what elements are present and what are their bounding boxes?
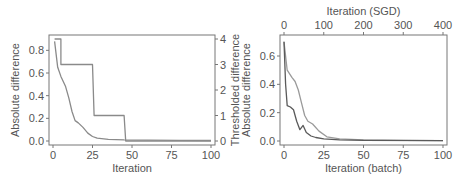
y-right-tick-label: 0 (220, 135, 226, 147)
y-tick-label: 0.0 (29, 135, 44, 147)
y-right-tick-label: 1 (220, 110, 226, 122)
x-tick-label: 100 (202, 149, 220, 161)
x-tick-label: 100 (434, 149, 452, 161)
x-axis-label: Iteration (112, 162, 152, 174)
series-line (55, 41, 211, 140)
x-tick-label: 25 (318, 149, 330, 161)
plot-frame (49, 35, 215, 145)
y-right-tick-label: 3 (220, 59, 226, 71)
y-tick-label: 0.6 (260, 50, 275, 62)
series-line (284, 42, 443, 141)
y-tick-label: 0.2 (29, 112, 44, 124)
y-tick-label: 0.8 (29, 44, 44, 56)
y-tick-label: 0.6 (29, 67, 44, 79)
x-top-tick-label: 200 (354, 19, 372, 31)
x-top-axis-label: Iteration (SGD) (327, 5, 401, 17)
y-axis-label: Absolute difference (240, 43, 252, 137)
x-top-tick-label: 300 (394, 19, 412, 31)
left-chart: 02550751000.00.20.40.60.8IterationAbsolu… (9, 33, 241, 174)
x-top-tick-label: 100 (315, 19, 333, 31)
x-tick-label: 50 (357, 149, 369, 161)
x-tick-label: 0 (50, 149, 56, 161)
figure: 02550751000.00.20.40.60.8IterationAbsolu… (0, 0, 469, 180)
y-right-tick-label: 2 (220, 84, 226, 96)
series-line (284, 42, 443, 141)
x-tick-label: 50 (126, 149, 138, 161)
x-tick-label: 75 (397, 149, 409, 161)
x-top-tick-label: 0 (281, 19, 287, 31)
x-axis-label: Iteration (batch) (325, 162, 402, 174)
right-chart: 02550751000.00.20.40.6Iteration (batch)A… (240, 5, 452, 174)
y-right-tick-label: 4 (220, 33, 226, 45)
y-tick-label: 0.0 (260, 135, 275, 147)
x-tick-label: 25 (86, 149, 98, 161)
series-line (55, 39, 211, 141)
x-tick-label: 0 (281, 149, 287, 161)
x-top-tick-label: 400 (434, 19, 452, 31)
y-tick-label: 0.2 (260, 107, 275, 119)
y-axis-label: Absolute difference (9, 43, 21, 137)
y-tick-label: 0.4 (29, 90, 44, 102)
x-tick-label: 75 (165, 149, 177, 161)
y-tick-label: 0.4 (260, 78, 275, 90)
